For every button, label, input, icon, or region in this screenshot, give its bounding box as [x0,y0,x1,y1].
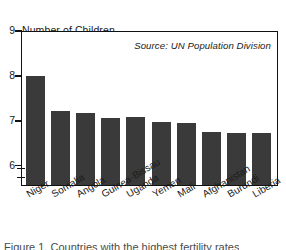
figure-caption: Figure 1. Countries with the highest fer… [4,241,239,250]
bar-series [0,0,286,250]
fertility-bar-chart-figure: Number of Children Per Woman Source: UN … [0,0,286,250]
bar [26,76,45,185]
bar [51,111,70,185]
bar [202,132,221,185]
bar [177,123,196,185]
bar [101,118,120,185]
